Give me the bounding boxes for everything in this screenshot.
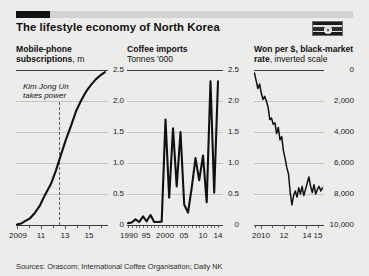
ytick-0.5: 0.5: [108, 189, 124, 198]
xtick-2: [29, 225, 30, 228]
ytick-2000: 2,000: [324, 96, 354, 105]
panel-3-title-line2: rate: [254, 54, 270, 64]
series-won-rate: [254, 70, 324, 226]
ytick-1.0: 1.0: [108, 158, 124, 167]
xlabel-13: 13: [57, 231, 73, 240]
xtick-8: [101, 225, 102, 228]
xlabel-95: 95: [139, 231, 153, 240]
xlabel-11: 11: [33, 231, 49, 240]
panel-3-title-line1: Won per $, black-market: [254, 44, 353, 54]
xlabel-2000: 2000: [154, 231, 176, 240]
chart-won-black-market-rate: 0 2,000 4,000 6,000 8,000 10,000 2010 12…: [254, 70, 354, 230]
panel-1-title: Mobile-phone subscriptions, m: [16, 45, 84, 64]
ytick-10000: 10,000: [324, 220, 354, 229]
series-coffee-imports: [127, 70, 223, 226]
header-tab-accent: [16, 11, 50, 18]
xlabel-2010: 2010: [250, 231, 272, 240]
xlabel-14: 14: [211, 231, 225, 240]
xlabel-15: 15: [311, 231, 325, 240]
xtick-1: [17, 225, 18, 229]
ytick-2.0: 2.0: [108, 96, 124, 105]
xtick-5: [65, 225, 66, 229]
xtick-7: [318, 225, 319, 228]
ytick-8000: 8,000: [324, 189, 354, 198]
panel-1-title-line1: Mobile-phone: [16, 44, 72, 54]
ytick-2.0: 2.0: [223, 96, 239, 105]
xtick-2: [261, 225, 262, 229]
panel-3-title-unit: , inverted scale: [270, 54, 328, 64]
chart-mobile-phone-subscriptions: 2.5 2.0 1.5 1.0 0.5 0 Kim Jong Un takes …: [16, 70, 124, 230]
sources-note: Sources: Orascom; International Coffee O…: [16, 262, 223, 271]
panel-2-subtitle: Tonnes '000: [127, 55, 173, 65]
page-title: The lifestyle economy of North Korea: [16, 21, 220, 33]
ytick-0.5: 0.5: [223, 189, 239, 198]
ytick-0: 0: [223, 220, 239, 229]
xtick-6: [306, 225, 307, 229]
panel-2-title-line2: Tonnes '000: [127, 54, 173, 64]
infographic-page: The lifestyle economy of North Korea Mob…: [0, 0, 369, 276]
ytick-0: 0: [324, 65, 354, 74]
header-rule: [16, 11, 353, 18]
xtick-4: [284, 225, 285, 229]
xtick-7: [89, 225, 90, 229]
xlabel-2009: 2009: [6, 231, 30, 240]
chart-coffee-imports: 2.5 2.0 1.5 1.0 0.5 0 1990: [127, 70, 239, 230]
ytick-1.0: 1.0: [223, 158, 239, 167]
xtick-5: [295, 225, 296, 228]
ytick-0: 0: [108, 220, 124, 229]
ytick-6000: 6,000: [324, 158, 354, 167]
xlabel-12: 12: [277, 231, 291, 240]
panel-2-title-line1: Coffee imports: [127, 44, 188, 54]
xtick-1: [255, 225, 256, 228]
xlabel-1990: 1990: [118, 231, 140, 240]
ytick-2.5: 2.5: [223, 65, 239, 74]
ytick-4000: 4,000: [324, 127, 354, 136]
xlabel-10: 10: [196, 231, 210, 240]
xlabel-15: 15: [81, 231, 97, 240]
xtick-4: [53, 225, 54, 228]
ytick-2.5: 2.5: [108, 65, 124, 74]
north-korea-flag-icon: [312, 21, 343, 36]
xtick-3: [272, 225, 273, 228]
series-mobile-subscriptions: [16, 70, 108, 226]
xtick-3: [41, 225, 42, 229]
panel-1-title-unit: , m: [72, 54, 84, 64]
ytick-1.5: 1.5: [108, 127, 124, 136]
xtick-6: [77, 225, 78, 228]
ytick-1.5: 1.5: [223, 127, 239, 136]
panel-3-title: Won per $, black-market rate, inverted s…: [254, 45, 353, 64]
panel-1-title-line2: subscriptions: [16, 54, 72, 64]
xlabel-05: 05: [177, 231, 191, 240]
